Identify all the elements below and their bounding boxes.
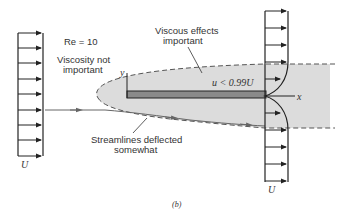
x-axis-label: x xyxy=(296,91,302,102)
reynolds-number-label: Re = 10 xyxy=(64,36,98,47)
flat-plate xyxy=(127,91,266,98)
y-axis-label: y xyxy=(119,67,125,78)
streamlines-leader xyxy=(133,118,147,133)
right-freestream-label: U xyxy=(268,184,276,195)
viscosity-not-important-line2: important xyxy=(63,64,103,75)
left-freestream-label: U xyxy=(21,159,29,170)
streamlines-deflected-line2: somewhat xyxy=(114,144,158,155)
velocity-condition-label: u < 0.99U xyxy=(212,77,254,88)
left-velocity-profile xyxy=(18,33,43,156)
figure-caption: (b) xyxy=(172,200,182,209)
viscous-effects-line2: important xyxy=(163,35,203,46)
flat-plate-diagram: y x U U Re = 10 Viscosity not important xyxy=(0,0,349,210)
